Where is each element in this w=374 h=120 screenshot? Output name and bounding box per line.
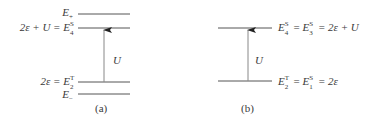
e-symbol: E — [302, 21, 309, 33]
sub: 3 — [309, 27, 313, 39]
equals: = — [291, 21, 303, 33]
energy-level-diagram — [0, 0, 374, 120]
sub: 2 — [285, 81, 289, 93]
e-symbol: E — [278, 75, 285, 87]
rhs: = 2ε + U — [315, 21, 359, 33]
rhs: = 2ε — [315, 75, 338, 87]
e2-lhs: 2ε = — [41, 75, 64, 87]
label-b-bottom: ET2 = ES1 = 2ε — [278, 75, 338, 87]
e4-sub: 4 — [70, 27, 74, 39]
caption-b: (b) — [241, 102, 254, 114]
label-e4s-a: 2ε + U = ES4 — [20, 21, 76, 33]
e-symbol: E — [278, 21, 285, 33]
label-e2t-a: 2ε = ET2 — [41, 75, 77, 87]
sub: 4 — [285, 27, 289, 39]
label-b-top: ES4 = ES3 = 2ε + U — [278, 21, 359, 33]
e4-lhs: 2ε + U = — [20, 21, 64, 33]
e-minus-sub: − — [69, 95, 73, 103]
arrow-label-u-a: U — [113, 54, 121, 66]
e-symbol: E — [63, 75, 70, 87]
equals: = — [291, 75, 303, 87]
e-symbol: E — [302, 75, 309, 87]
panel-b — [218, 28, 272, 81]
sub: 1 — [309, 81, 313, 93]
panel-a — [78, 14, 130, 94]
label-e-minus: E− — [62, 88, 73, 105]
arrow-label-u-b: U — [255, 54, 263, 66]
caption-a: (a) — [95, 102, 107, 114]
e-symbol: E — [63, 21, 70, 33]
